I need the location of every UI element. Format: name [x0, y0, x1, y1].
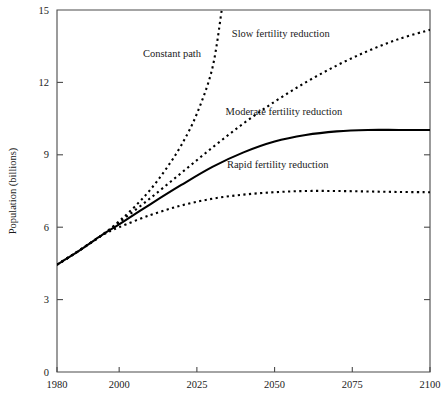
y-tick-label: 3	[44, 294, 49, 305]
y-tick-label: 12	[39, 77, 50, 88]
x-tick-label: 2100	[420, 379, 441, 390]
series-annotations: Constant pathSlow fertility reductionMod…	[143, 28, 343, 171]
x-tick-label: 2025	[186, 379, 207, 390]
chart-series-lines	[57, 10, 430, 265]
y-tick-label: 0	[44, 367, 49, 378]
annotation-constant-path: Constant path	[143, 48, 202, 59]
annotation-slow-fertility-reduction: Slow fertility reduction	[232, 28, 331, 39]
y-axis-ticks: 03691215	[39, 5, 431, 378]
x-tick-label: 2000	[109, 379, 130, 390]
series-line-moderate-fertility-reduction	[57, 130, 430, 265]
y-axis-title: Population (billions)	[7, 147, 19, 234]
x-tick-label: 1980	[47, 379, 68, 390]
chart-canvas: 198020002025205020752100 03691215 Consta…	[0, 0, 444, 400]
annotation-moderate-fertility-reduction: Moderate fertility reduction	[226, 106, 343, 117]
y-axis-title-group: Population (billions)	[7, 147, 19, 234]
x-axis-ticks: 198020002025205020752100	[47, 367, 441, 390]
x-tick-label: 2075	[342, 379, 363, 390]
population-projection-chart: 198020002025205020752100 03691215 Consta…	[0, 0, 444, 400]
annotation-rapid-fertility-reduction: Rapid fertility reduction	[227, 159, 329, 170]
y-tick-label: 15	[39, 5, 50, 16]
y-tick-label: 9	[44, 149, 49, 160]
y-tick-label: 6	[44, 222, 49, 233]
x-tick-label: 2050	[264, 379, 285, 390]
